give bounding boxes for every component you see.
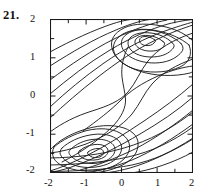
- x-axis-ticks: [51, 168, 193, 173]
- y-axis-right-ticks: [188, 20, 193, 173]
- contour-line: [50, 33, 193, 132]
- y-tick-label-1: 1: [30, 52, 35, 63]
- contour-line: [50, 19, 137, 52]
- x-tick-label-2: 2: [189, 178, 194, 189]
- contour-line: [50, 20, 167, 80]
- y-tick-label-neg1: -1: [26, 128, 35, 139]
- figure-contour-plot: 21. 2 1 0 -1 -2 -2 -1 0 1 2: [0, 0, 203, 196]
- x-tick-label-neg1: -1: [80, 178, 89, 189]
- contour-lines-group: [50, 19, 193, 173]
- problem-number-label: 21.: [3, 9, 19, 22]
- x-tick-label-0: 0: [119, 178, 124, 189]
- x-tick-label-1: 1: [155, 178, 160, 189]
- y-tick-label-0: 0: [30, 90, 35, 101]
- x-tick-label-neg2: -2: [44, 178, 53, 189]
- contour-line: [50, 20, 193, 95]
- y-tick-label-neg2: -2: [26, 165, 35, 176]
- y-tick-label-2: 2: [30, 14, 35, 25]
- x-axis-top-ticks: [51, 20, 193, 25]
- plot-area: [50, 19, 193, 173]
